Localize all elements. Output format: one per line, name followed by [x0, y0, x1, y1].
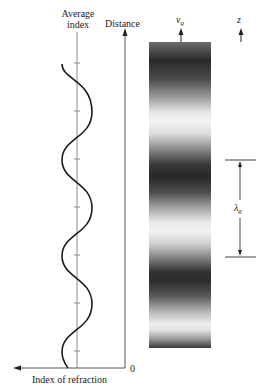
- z-label: z: [237, 14, 241, 25]
- average-index-label: Average index: [60, 8, 96, 30]
- wavelength-arrow-down-icon: [238, 250, 242, 256]
- velocity-subscript: g: [180, 19, 184, 27]
- velocity-label: vg: [176, 14, 184, 29]
- lambda-subscript: g: [238, 207, 242, 215]
- index-plot: [0, 0, 259, 390]
- wavelength-arrow-up-icon: [238, 161, 242, 167]
- average-label-line1: Average: [60, 8, 96, 19]
- grating-bands: [149, 42, 211, 348]
- wavelength-label: λg: [234, 202, 242, 217]
- index-axis-arrow-icon: [13, 366, 21, 371]
- origin-label: 0: [130, 363, 135, 374]
- velocity-arrow-icon: [179, 28, 184, 35]
- distance-axis-arrow-icon: [123, 28, 128, 36]
- distance-axis-label: Distance: [105, 18, 140, 29]
- z-arrow-icon: [239, 28, 244, 35]
- index-of-refraction-label: Index of refraction: [32, 374, 107, 385]
- average-label-line2: index: [60, 19, 96, 30]
